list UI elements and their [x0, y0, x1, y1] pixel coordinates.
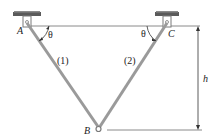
member-1-label: (1): [57, 55, 69, 67]
theta-label-a: θ: [48, 29, 53, 40]
member-1: [27, 23, 99, 128]
theta-label-c: θ: [141, 28, 146, 39]
label-c: C: [168, 28, 175, 39]
dimension-h-arrow-bottom: [196, 125, 200, 130]
member-2-label: (2): [124, 55, 136, 67]
angle-arc-c: [147, 26, 156, 41]
dimension-h-label: h: [203, 73, 208, 84]
member-2: [99, 23, 167, 128]
label-a: A: [16, 25, 24, 36]
pin-b: [96, 127, 101, 132]
label-b: B: [84, 125, 90, 136]
dimension-h-arrow-top: [196, 26, 200, 31]
truss-diagram: A C B θ θ (1) (2) h: [0, 0, 211, 138]
